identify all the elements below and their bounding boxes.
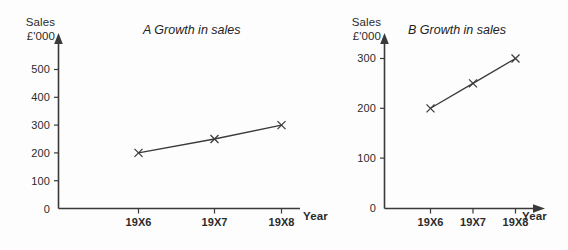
- chart-a-y-axis-arrow-icon: [54, 33, 63, 44]
- chart-a-title: A Growth in sales: [143, 23, 241, 37]
- chart-a-y-label-0: 0: [8, 203, 50, 215]
- chart-a-y-label-100: 100: [8, 175, 50, 187]
- chart-b-y-axis-title-line1: Sales: [326, 16, 381, 28]
- chart-b-y-label-300: 300: [334, 52, 376, 64]
- chart-a-data-line: [139, 125, 282, 153]
- chart-a-x-label-19X7: 19X7: [184, 216, 245, 228]
- chart-b-marker-19X7: [469, 79, 477, 87]
- chart-a-data-markers: [135, 121, 286, 157]
- chart-a-growth-in-sales: A Growth in sales Sales £'000 500 400 30…: [0, 0, 300, 250]
- chart-b-y-axis-arrow-icon: [380, 33, 389, 44]
- chart-b-x-axis-title: Year: [522, 210, 547, 222]
- chart-a-y-label-200: 200: [8, 147, 50, 159]
- chart-b-y-axis-title-line2: £'000: [326, 30, 381, 42]
- chart-b-y-label-100: 100: [334, 152, 376, 164]
- chart-b-marker-19X8: [512, 55, 520, 63]
- chart-page: A Growth in sales Sales £'000 500 400 30…: [0, 0, 568, 250]
- chart-b-y-label-0: 0: [334, 202, 376, 214]
- chart-a-x-label-19X6: 19X6: [108, 216, 169, 228]
- chart-a-y-axis-title-line2: £'000: [0, 30, 55, 42]
- chart-b-growth-in-sales: B Growth in sales Sales £'000 300 200 10…: [300, 0, 568, 250]
- chart-b-title: B Growth in sales: [408, 23, 506, 37]
- chart-a-y-label-500: 500: [8, 63, 50, 75]
- chart-a-y-axis-title-line1: Sales: [0, 16, 55, 28]
- chart-b-y-label-200: 200: [334, 102, 376, 114]
- chart-a-y-label-400: 400: [8, 91, 50, 103]
- chart-b-data-markers: [427, 55, 520, 113]
- chart-a-y-label-300: 300: [8, 119, 50, 131]
- chart-b-marker-19X6: [427, 104, 435, 112]
